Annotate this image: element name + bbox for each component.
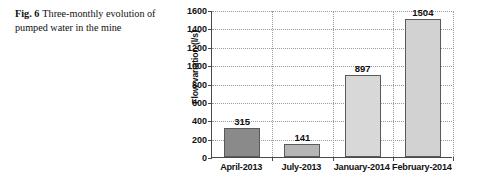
bar xyxy=(345,75,381,157)
x-axis-tick-mark xyxy=(272,157,273,161)
y-axis-tick-mark xyxy=(208,158,212,159)
y-axis-tick-mark xyxy=(208,140,212,141)
x-axis-tick-mark xyxy=(453,157,454,161)
bar-value-label: 141 xyxy=(294,132,310,143)
x-axis-tick-label: April-2013 xyxy=(220,162,262,172)
x-axis-tick-labels: April-2013July-2013January-2014February-… xyxy=(211,162,452,178)
gridline-vertical xyxy=(333,11,334,157)
bar xyxy=(405,19,441,157)
bar-value-label: 1504 xyxy=(412,7,433,18)
figure-container: Fig. 6Three-monthly evolution of pumped … xyxy=(0,0,477,191)
figure-caption: Fig. 6Three-monthly evolution of pumped … xyxy=(15,7,170,34)
y-axis-tick-mark xyxy=(208,66,212,67)
x-axis-tick-mark xyxy=(393,157,394,161)
plot-area: 3151418971504 xyxy=(211,11,452,158)
y-axis-tick-labels: 02004006008001000120014001600 xyxy=(180,4,207,159)
x-axis-tick-label: July-2013 xyxy=(282,162,322,172)
y-axis-tick-label: 1200 xyxy=(180,43,207,53)
bar xyxy=(224,128,260,157)
bar-value-label: 897 xyxy=(355,63,371,74)
y-axis-tick-label: 0 xyxy=(180,153,207,163)
bar xyxy=(284,144,320,157)
x-axis-tick-mark xyxy=(333,157,334,161)
gridline-vertical xyxy=(272,11,273,157)
y-axis-tick-mark xyxy=(208,85,212,86)
y-axis-tick-label: 1400 xyxy=(180,24,207,34)
y-axis-tick-mark xyxy=(208,103,212,104)
x-axis-tick-label: February-2014 xyxy=(392,162,452,172)
y-axis-tick-label: 200 xyxy=(180,135,207,145)
bar-value-label: 315 xyxy=(234,116,250,127)
y-axis-tick-mark xyxy=(208,121,212,122)
y-axis-tick-label: 1600 xyxy=(180,6,207,16)
figure-number: Fig. 6 xyxy=(15,8,39,19)
y-axis-tick-mark xyxy=(208,11,212,12)
y-axis-tick-mark xyxy=(208,29,212,30)
y-axis-tick-label: 1000 xyxy=(180,61,207,71)
y-axis-tick-label: 800 xyxy=(180,80,207,90)
gridline-vertical xyxy=(453,11,454,157)
y-axis-tick-label: 400 xyxy=(180,116,207,126)
x-axis-tick-label: January-2014 xyxy=(334,162,390,172)
bar-chart: Flow variation (l/s) 0200400600800100012… xyxy=(180,0,477,191)
gridline-vertical xyxy=(393,11,394,157)
y-axis-tick-mark xyxy=(208,48,212,49)
y-axis-tick-label: 600 xyxy=(180,98,207,108)
